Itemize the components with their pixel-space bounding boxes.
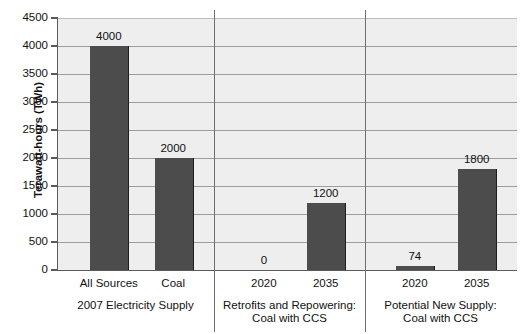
y-axis-tick-label: 1500 <box>4 180 48 192</box>
bar <box>155 158 194 270</box>
y-axis-tick-label: 4500 <box>4 12 48 24</box>
category-label: 2035 <box>427 278 527 290</box>
y-axis-tick-label: 3500 <box>4 68 48 80</box>
y-axis-tick-label: 3000 <box>4 96 48 108</box>
y-axis-tick-mark <box>51 185 58 187</box>
bar <box>396 266 435 270</box>
y-axis-tick-mark <box>51 129 58 131</box>
y-axis-tick-mark <box>51 213 58 215</box>
bar-value-label: 1800 <box>437 154 517 166</box>
category-label: Coal <box>123 278 223 290</box>
bar <box>458 169 497 270</box>
category-label: 2035 <box>276 278 376 290</box>
y-axis-tick-label: 500 <box>4 236 48 248</box>
y-axis-tick-mark <box>51 101 58 103</box>
group-label: Potential New Supply: Coal with CCS <box>356 299 526 325</box>
group-label: Retrofits and Repowering: Coal with CCS <box>205 299 375 325</box>
y-axis-tick-label: 1000 <box>4 208 48 220</box>
y-axis-tick-mark <box>51 73 58 75</box>
group-label: 2007 Electricity Supply <box>51 299 221 312</box>
gridline <box>58 18 517 19</box>
y-axis-tick-label: 4000 <box>4 40 48 52</box>
bar-value-label: 1200 <box>286 188 366 200</box>
bar-value-label: 0 <box>224 255 304 267</box>
bar-value-label: 74 <box>375 251 455 263</box>
bar-value-label: 4000 <box>69 31 149 43</box>
bar <box>307 203 346 270</box>
bar <box>90 46 129 270</box>
bar-value-label: 2000 <box>133 143 213 155</box>
y-axis-tick-label: 2000 <box>4 152 48 164</box>
y-axis-tick-label: 0 <box>4 264 48 276</box>
y-axis-tick-labels: 050010001500200025003000350040004500 <box>0 18 48 270</box>
y-axis-tick-mark <box>51 17 58 19</box>
y-axis-tick-mark <box>51 241 58 243</box>
y-axis-tick-mark <box>51 45 58 47</box>
bar-chart: Terawatt-hours (TWh) 0500100015002000250… <box>0 0 530 334</box>
y-axis-tick-mark <box>51 269 58 271</box>
y-axis-tick-mark <box>51 157 58 159</box>
y-axis-tick-label: 2500 <box>4 124 48 136</box>
plot-area <box>57 18 517 271</box>
